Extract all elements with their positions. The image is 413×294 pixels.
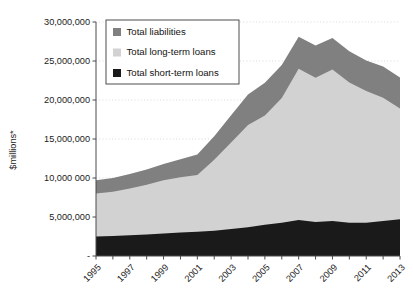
chart-container: 30,000,00025,000,00020,000,00015,000,000… <box>0 0 413 294</box>
y-tick-label: 20,000,000 <box>44 95 90 105</box>
y-axis-title: $millions* <box>8 130 18 170</box>
legend-label: Total liabilities <box>127 26 186 37</box>
y-tick-label: 25,000,000 <box>44 56 90 66</box>
chart-legend: Total liabilitiesTotal long-term loansTo… <box>106 20 239 84</box>
legend-label: Total long-term loans <box>127 46 216 57</box>
y-tick-label: - <box>87 251 90 261</box>
legend-swatch-liabilities <box>113 28 121 36</box>
y-axis-title-group: $millions* <box>8 130 18 170</box>
stacked-area-chart: 30,000,00025,000,00020,000,00015,000,000… <box>0 0 413 294</box>
legend-swatch-shortterm <box>113 69 121 77</box>
legend-label: Total short-term loans <box>127 67 219 78</box>
y-tick-label: 10,000 000 <box>44 173 90 183</box>
y-tick-label: 15,000,000 <box>44 134 90 144</box>
y-tick-label: 30,000,000 <box>44 17 90 27</box>
legend-swatch-longterm <box>113 49 121 57</box>
y-tick-label: 5,000,000 <box>49 212 90 222</box>
